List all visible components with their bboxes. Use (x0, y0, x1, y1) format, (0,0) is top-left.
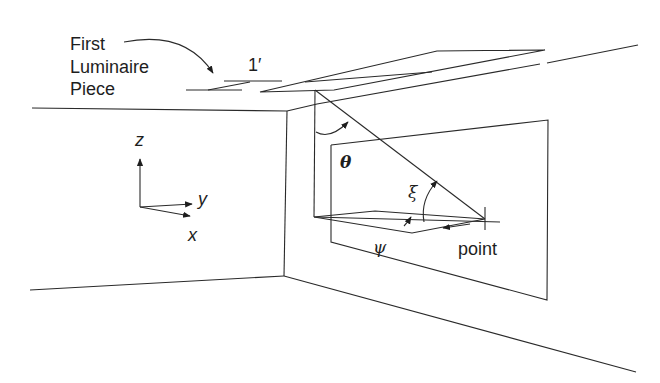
length-label: 1′ (248, 56, 261, 74)
right-wall-ceiling-edge (317, 64, 540, 104)
point-label: point (458, 240, 497, 258)
room-corner-line (284, 111, 287, 276)
psi-arc-small-icon (404, 217, 411, 226)
luminaire (186, 50, 545, 92)
xi-label: ξ (408, 184, 417, 201)
left-wall-floor-edge (30, 276, 284, 290)
left-wall-ceiling-edge (32, 108, 287, 111)
right-wall-floor-edge (284, 276, 636, 372)
room-walls (30, 45, 638, 372)
vertical-plane (331, 120, 548, 300)
luminaire-label-line3: Piece (70, 80, 115, 98)
x-axis-label: x (188, 226, 197, 244)
geometry-lines (314, 90, 548, 300)
theta-arc-icon (316, 122, 348, 134)
z-axis-label: z (135, 131, 144, 149)
coordinate-axes (140, 159, 192, 216)
x-axis-arrow-icon (140, 207, 190, 216)
y-axis-label: y (198, 190, 207, 208)
psi-label: ψ (373, 239, 386, 256)
first-luminaire-piece-diagonal (208, 82, 250, 90)
y-axis-arrow-icon (140, 204, 192, 207)
azimuth-wedge (314, 211, 485, 233)
vertical-drop-line (314, 90, 315, 217)
ceiling-corner-edge (287, 104, 317, 111)
luminaire-label-line2: Luminaire (70, 58, 149, 76)
theta-label: θ (340, 154, 351, 171)
luminaire-label-line1: First (70, 35, 105, 53)
diagram-canvas: First Luminaire Piece 1′ z y x θ ξ ψ poi… (0, 0, 660, 383)
right-wall-ceiling-edge-far (547, 45, 638, 63)
